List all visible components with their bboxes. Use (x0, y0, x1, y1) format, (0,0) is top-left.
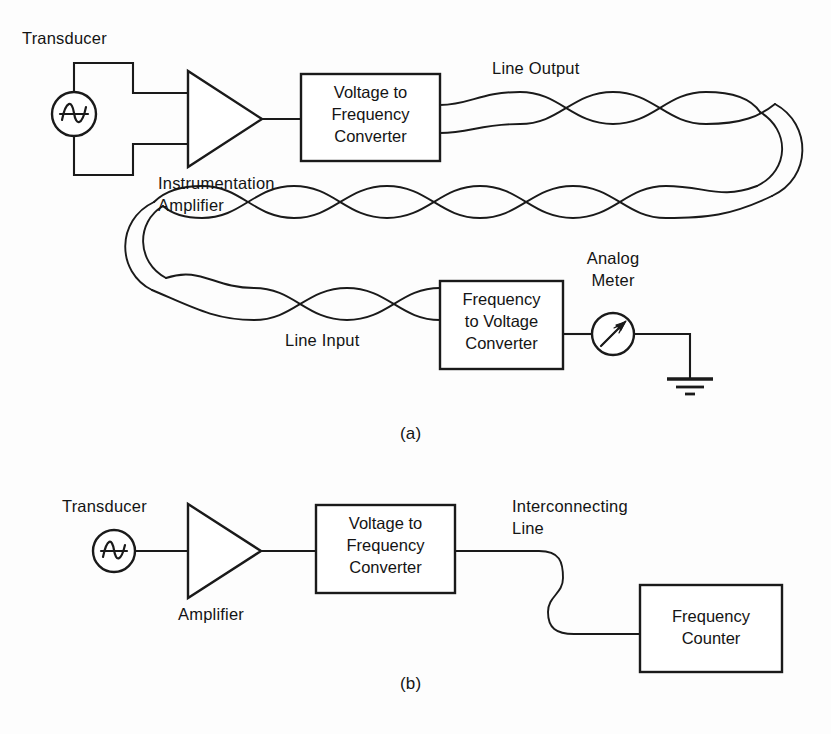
fvc-box-label-line2: to Voltage (440, 311, 563, 332)
pair-loop-right-inner (772, 104, 802, 196)
vfc-box-label-b-line2: Frequency (316, 535, 455, 556)
part-a-caption: (a) (400, 424, 421, 444)
vfc-box-label-b-line3: Converter (316, 557, 455, 578)
figure-canvas: Transducer Instrumentation Amplifier Vol… (0, 0, 831, 734)
interconnecting-line-wire (455, 551, 640, 634)
transducer-upper-lead-a (74, 63, 188, 93)
vfc-box-label-a-line1: Voltage to (301, 82, 440, 103)
analog-meter-label-line1: Analog (573, 248, 653, 268)
fvc-box-label-line1: Frequency (440, 289, 563, 310)
frequency-counter-label-line1: Frequency (640, 606, 782, 627)
transducer-label-a: Transducer (22, 28, 107, 48)
analog-meter-symbol (592, 313, 634, 355)
vfc-box-label-b-line1: Voltage to (316, 513, 455, 534)
transducer-symbol-a (52, 92, 96, 136)
line-input-wire-2 (152, 288, 440, 320)
pair-loop-right-outer (757, 112, 782, 186)
analog-meter-label-line2: Meter (573, 270, 653, 290)
line-output-wire-2 (440, 92, 775, 133)
part-b-caption: (b) (400, 674, 421, 694)
transducer-symbol-b (93, 530, 135, 572)
line-output-label: Line Output (492, 58, 580, 78)
transducer-label-b: Transducer (62, 496, 147, 516)
ground-symbol (667, 379, 713, 394)
amplifier-symbol-b (188, 504, 261, 598)
fvc-box-label-line3: Converter (440, 333, 563, 354)
instrumentation-amplifier-label-line1: Instrumentation (158, 173, 275, 193)
frequency-counter-label-line2: Counter (640, 628, 782, 649)
interconnecting-line-label-line2: Line (512, 518, 544, 538)
pair-loop-left-outer (125, 202, 154, 290)
instrumentation-amplifier-label-line2: Amplifier (158, 195, 224, 215)
vfc-box-label-a-line2: Frequency (301, 104, 440, 125)
line-input-label: Line Input (285, 330, 359, 350)
pair-loop-left-inner (143, 206, 166, 278)
meter-to-ground-wire (634, 334, 690, 379)
instrumentation-amplifier-symbol-a (188, 71, 262, 167)
vfc-box-label-a-line3: Converter (301, 126, 440, 147)
transducer-lower-lead-a (74, 136, 188, 175)
amplifier-label-b: Amplifier (178, 604, 244, 624)
line-output-wire-1 (440, 92, 760, 124)
interconnecting-line-label-line1: Interconnecting (512, 496, 628, 516)
